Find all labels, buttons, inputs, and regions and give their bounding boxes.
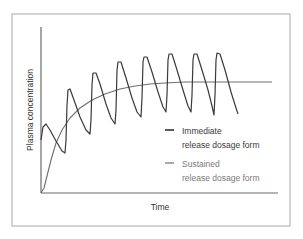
legend-label-sustained-line2: release dosage form xyxy=(182,173,260,183)
y-axis-label: Plasma concentration xyxy=(25,69,35,151)
x-axis-label: Time xyxy=(151,202,170,212)
legend-label-immediate-line2: release dosage form xyxy=(182,140,260,150)
pharmacokinetics-chart: Immediate release dosage form Sustained … xyxy=(0,0,303,239)
legend-label-immediate-line1: Immediate xyxy=(182,126,222,136)
figure-frame xyxy=(12,14,290,226)
legend-label-sustained-line1: Sustained xyxy=(182,159,220,169)
